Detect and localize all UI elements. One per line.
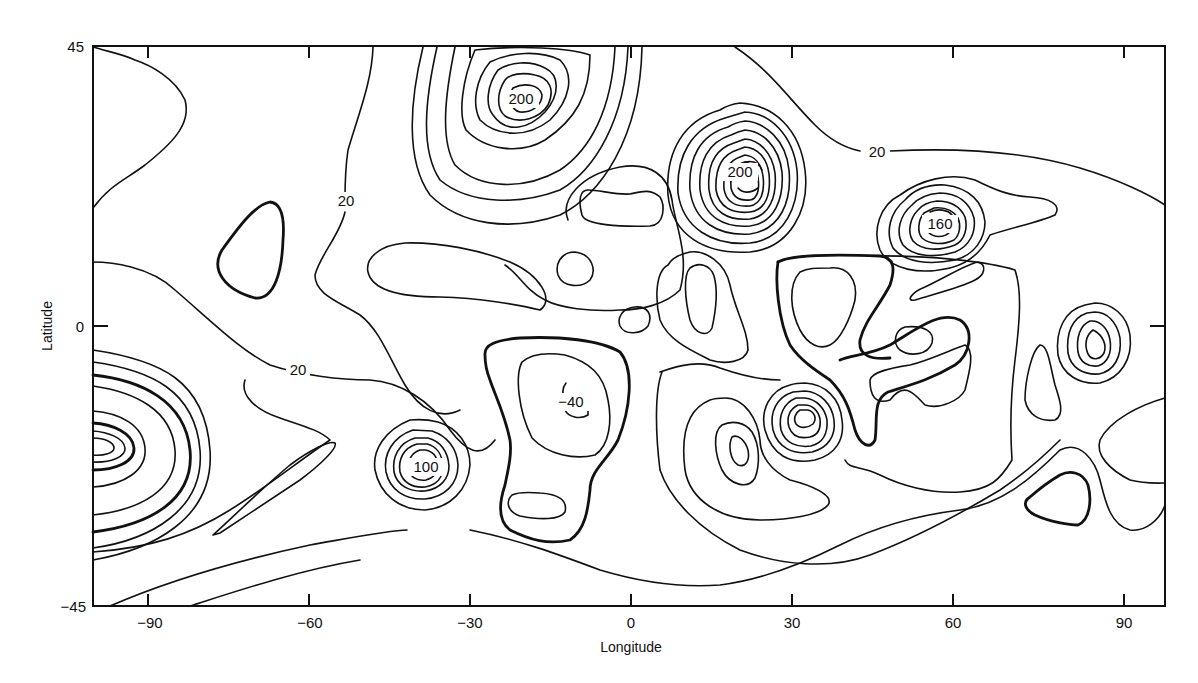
contour-lower-mid-outer	[660, 364, 780, 380]
y-tick-label: −45	[61, 598, 86, 615]
label-peak-sw: 100	[413, 458, 438, 475]
contour-lines	[93, 47, 1165, 620]
contour-loop-east-a	[657, 252, 748, 363]
y-axis-title: Latitude	[39, 301, 55, 351]
label-trough-center: −40	[558, 393, 583, 410]
contour-sw-diagonal	[213, 442, 335, 535]
x-tick-label: 60	[945, 614, 962, 631]
x-tick-label: −60	[297, 614, 322, 631]
label-peak-ne: 160	[927, 215, 952, 232]
contour-east-max-b	[764, 383, 843, 461]
y-tick-labels: 45 0 −45	[61, 38, 86, 615]
contour-zero-region-east-top	[778, 255, 893, 358]
x-tick-label: −30	[457, 614, 482, 631]
x-tick-label: 30	[784, 614, 801, 631]
contour-sw-bottom	[110, 530, 407, 606]
contour-circle-b	[619, 307, 650, 333]
label-level-20-southwest: 20	[290, 361, 307, 378]
contour-blob-east-b	[792, 268, 856, 347]
contour-chart: 200 200 160 100 −40 20 20 20 −90 −60	[0, 0, 1198, 683]
y-tick-label: 45	[67, 38, 84, 55]
x-tick-labels: −90 −60 −30 0 30 60 90	[137, 614, 1132, 631]
contour-nw-lobe	[93, 47, 186, 208]
contour-zero-trough	[485, 338, 629, 542]
contour-zero-region-east	[777, 262, 969, 445]
x-axis-title: Longitude	[600, 639, 662, 655]
label-level-20-west: 20	[338, 192, 355, 209]
label-level-20-northeast: 20	[869, 143, 886, 160]
contour-sliver-east	[910, 262, 984, 300]
x-tick-label: −90	[137, 614, 162, 631]
contour-far-east-max	[1057, 303, 1130, 383]
contour-west-max	[93, 350, 210, 560]
plot-frame	[93, 46, 1165, 606]
contour-nw-max	[412, 47, 642, 224]
contour-loop-east-a-inner	[685, 265, 716, 334]
contour-east-edge-a	[1099, 398, 1165, 483]
contour-blob-mid-north	[580, 190, 663, 226]
x-tick-label: 0	[627, 614, 635, 631]
contour-loop-east-d	[870, 345, 971, 406]
label-peak-nw: 200	[508, 90, 533, 107]
contour-lower-mid-inner-a	[716, 422, 759, 484]
contour-20-northeast	[735, 47, 860, 151]
contour-zero-loop-se	[1025, 472, 1089, 525]
contour-trough-small	[508, 492, 565, 518]
contour-bottom-wide	[470, 447, 1165, 585]
contour-20-west	[345, 47, 373, 200]
contour-sliver-far-east	[1025, 345, 1061, 420]
contour-labels: 200 200 160 100 −40 20 20 20	[286, 90, 958, 476]
x-tick-label: 90	[1116, 614, 1133, 631]
contour-lower-mid-inner-b	[730, 436, 749, 465]
contour-lower-mid-loop	[684, 398, 829, 520]
contour-sw-bottom2	[190, 560, 360, 606]
contour-circle-a	[557, 252, 593, 285]
contour-zero-loop-west	[218, 202, 284, 298]
contour-east-outer	[845, 256, 1020, 492]
label-peak-center: 200	[727, 163, 752, 180]
y-tick-label: 0	[76, 318, 84, 335]
contour-blob-west-mid	[368, 243, 546, 310]
x-ticks	[148, 46, 1124, 606]
